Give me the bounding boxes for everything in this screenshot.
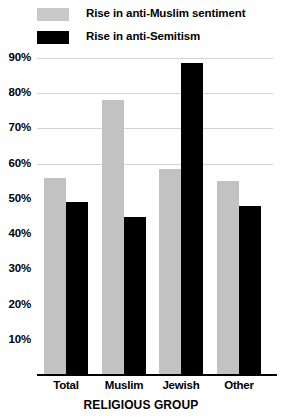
y-axis-tick-label: 40% xyxy=(9,228,31,240)
bar-muslim-anti-muslim-sentiment xyxy=(102,100,124,375)
gridline xyxy=(37,164,273,165)
y-axis-tick-label: 20% xyxy=(9,299,31,311)
bar-other-anti-semitism xyxy=(239,206,261,375)
x-axis-title: RELIGIOUS GROUP xyxy=(0,399,282,411)
category-label-other: Other xyxy=(203,380,275,392)
gridline xyxy=(37,93,273,94)
y-axis-tick-label: 30% xyxy=(9,263,31,275)
bar-total-anti-muslim-sentiment xyxy=(44,178,66,375)
bar-jewish-anti-muslim-sentiment xyxy=(159,169,181,375)
y-axis-tick-label: 80% xyxy=(9,87,31,99)
y-axis-tick-label: 10% xyxy=(9,334,31,346)
bar-total-anti-semitism xyxy=(66,202,88,375)
x-axis-line xyxy=(37,374,277,376)
y-axis-tick-label: 60% xyxy=(9,158,31,170)
bar-other-anti-muslim-sentiment xyxy=(217,181,239,375)
plot-area xyxy=(37,58,273,375)
bar-jewish-anti-semitism xyxy=(181,63,203,375)
gridline xyxy=(37,128,273,129)
gridline xyxy=(37,58,273,59)
y-axis-tick-label: 90% xyxy=(9,52,31,64)
bar-muslim-anti-semitism xyxy=(124,217,146,376)
y-axis-tick-label: 70% xyxy=(9,122,31,134)
bar-chart: 90%80%70%60%50%40%30%20%10% TotalMuslimJ… xyxy=(0,0,282,418)
y-axis-tick-label: 50% xyxy=(9,193,31,205)
